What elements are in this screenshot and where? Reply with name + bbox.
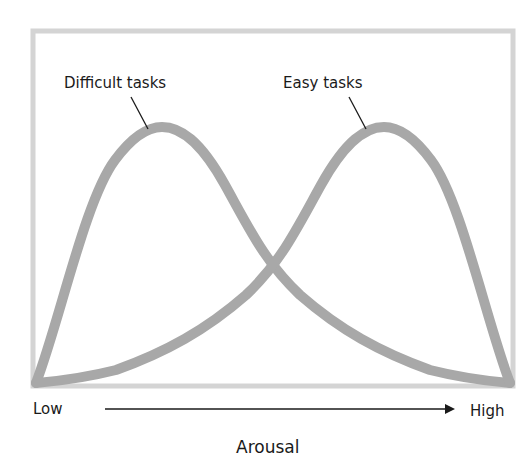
difficult-tasks-label: Difficult tasks (64, 74, 166, 92)
easy-tasks-label: Easy tasks (283, 74, 363, 92)
arrow-head-icon (445, 404, 455, 414)
x-axis-title: Arousal (236, 437, 299, 457)
low-label: Low (33, 400, 63, 418)
high-label: High (470, 402, 504, 420)
yerkes-dodson-diagram (0, 0, 529, 470)
easy-pointer-line (349, 97, 366, 129)
difficult-pointer-line (131, 97, 148, 129)
